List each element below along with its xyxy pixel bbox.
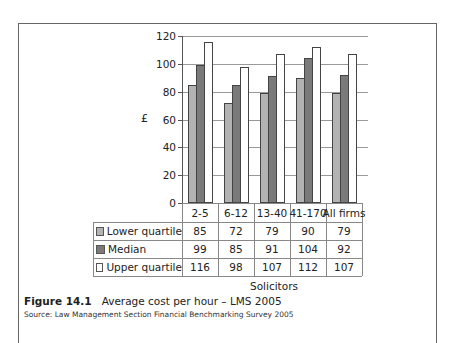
bar-upper-quartile [312, 47, 321, 203]
table-cell: 91 [254, 240, 290, 258]
table-cell: 85 [218, 240, 254, 258]
y-axis [182, 36, 183, 203]
y-tick-label: 80 [148, 86, 176, 98]
category-label: All firms [326, 203, 362, 222]
figure-label: Figure 14.1 [24, 295, 92, 307]
table-cell: 112 [290, 258, 326, 276]
table-cell: 72 [218, 222, 254, 240]
gridline [182, 36, 368, 37]
table-cell: 92 [326, 240, 362, 258]
y-tick-label: 60 [148, 114, 176, 126]
x-axis-label: Solicitors [250, 280, 298, 292]
category-label: 6-12 [218, 203, 254, 222]
table-cell: 85 [182, 222, 218, 240]
y-tick-label: 100 [148, 58, 176, 70]
bar-upper-quartile [240, 67, 249, 203]
table-cell: 107 [326, 258, 362, 276]
legend-label: Upper quartile [106, 261, 182, 273]
y-tick-label: 40 [148, 141, 176, 153]
legend-label: Median [108, 243, 146, 255]
y-axis-label: £ [141, 112, 148, 125]
bar-upper-quartile [348, 54, 357, 203]
legend-label: Lower quartile [107, 225, 182, 237]
table-cell: 104 [290, 240, 326, 258]
y-tick-label: 20 [148, 169, 176, 181]
figure-caption: Figure 14.1Average cost per hour – LMS 2… [24, 295, 282, 307]
bar-upper-quartile [276, 54, 285, 203]
legend-item: Median [96, 240, 182, 258]
table-cell: 98 [218, 258, 254, 276]
table-line [93, 222, 94, 276]
figure-title: Average cost per hour – LMS 2005 [102, 295, 282, 307]
table-cell: 79 [326, 222, 362, 240]
legend-item: Lower quartile [96, 222, 182, 240]
legend-swatch [96, 245, 105, 254]
table-line [93, 276, 362, 277]
figure-source: Source: Law Management Section Financial… [24, 310, 294, 319]
bar-upper-quartile [204, 42, 213, 203]
legend-swatch [96, 227, 104, 236]
category-label: 41-170 [290, 203, 326, 222]
legend-item: Upper quartile [96, 258, 182, 276]
table-cell: 116 [182, 258, 218, 276]
category-label: 2-5 [182, 203, 218, 222]
table-cell: 79 [254, 222, 290, 240]
y-tick-label: 120 [148, 30, 176, 42]
legend-swatch [96, 263, 103, 272]
category-label: 13-40 [254, 203, 290, 222]
table-cell: 90 [290, 222, 326, 240]
table-cell: 107 [254, 258, 290, 276]
table-cell: 99 [182, 240, 218, 258]
y-tick-label: 0 [148, 197, 176, 209]
